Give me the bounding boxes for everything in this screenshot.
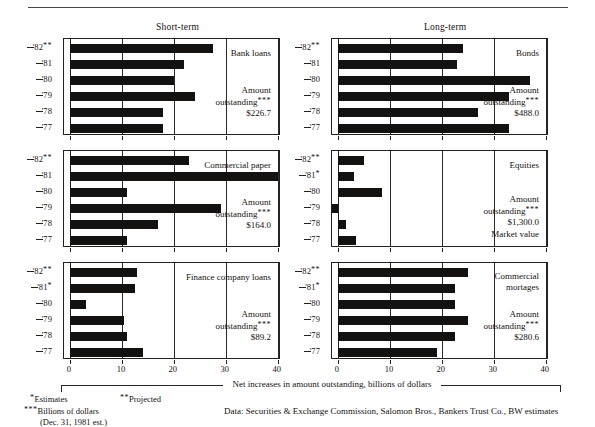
bar [70, 44, 213, 53]
x-tick-mark [390, 248, 391, 252]
x-axis-tick-label: 10 [385, 364, 394, 374]
amount-label-line2: outstanding*** [216, 321, 272, 333]
bar [70, 284, 135, 293]
x-tick-mark [226, 136, 227, 140]
gridline [546, 151, 547, 246]
chart-panel: '82**'81*'80'79'78'77Finance company loa… [58, 262, 280, 359]
x-tick-mark [546, 248, 547, 252]
y-axis-year-label: '80 [42, 298, 52, 308]
gridline [278, 39, 279, 134]
y-tick-mark [36, 207, 43, 208]
bar [338, 108, 478, 117]
y-axis-year-label: '79 [42, 90, 52, 100]
gridline [70, 39, 71, 134]
bar-row [64, 172, 279, 181]
y-tick-mark [304, 335, 311, 336]
amount-extra-note: Market value [484, 229, 540, 241]
plot-frame: Commercial paperAmountoutstanding***$164… [63, 150, 280, 247]
y-tick-mark [36, 351, 43, 352]
y-tick-mark [304, 239, 311, 240]
bar-row [64, 124, 279, 133]
x-tick-mark [494, 136, 495, 140]
gridline [546, 263, 547, 358]
y-tick-mark [304, 63, 311, 64]
amount-outstanding-annotation: Amountoutstanding***$164.0 [216, 197, 272, 232]
chart-panel: '82**'81*'80'79'78'77EquitiesAmountoutst… [326, 150, 548, 247]
y-tick-mark [304, 351, 311, 352]
gridline [338, 151, 339, 246]
bar [70, 204, 221, 213]
x-axis-tick-label: 20 [169, 364, 178, 374]
series-title: Equities [510, 160, 540, 171]
gridline [70, 151, 71, 246]
bar [70, 348, 143, 357]
x-axis-tick-label: 20 [437, 364, 446, 374]
bar [338, 284, 455, 293]
x-tick-mark [338, 136, 339, 140]
y-axis-year-label: '81* [305, 282, 320, 292]
bar [70, 172, 278, 181]
bar-row [332, 124, 547, 133]
gridline [390, 151, 391, 246]
x-tick-mark [174, 248, 175, 252]
bar [70, 156, 189, 165]
amount-value: $280.6 [484, 332, 540, 344]
amount-outstanding-annotation: Amountoutstanding***$226.7 [216, 85, 272, 120]
amount-label-line2: outstanding*** [484, 321, 540, 333]
y-tick-mark [36, 303, 43, 304]
y-axis-year-label: '80 [310, 298, 320, 308]
y-tick-mark [304, 207, 311, 208]
y-tick-mark [304, 79, 311, 80]
bar-row [64, 60, 279, 69]
y-axis-year-label: '82** [301, 266, 320, 276]
y-tick-mark [27, 271, 34, 272]
footnote-dec-note: (Dec. 31, 1981 est.) [40, 417, 107, 427]
amount-outstanding-annotation: Amountoutstanding***$488.0 [484, 85, 540, 120]
bar [338, 60, 457, 69]
y-tick-mark [27, 47, 34, 48]
y-axis-year-label: '80 [310, 74, 320, 84]
bar [338, 188, 382, 197]
series-title: Bonds [516, 48, 539, 59]
y-axis-year-label: '82** [301, 154, 320, 164]
x-tick-mark [122, 248, 123, 252]
gridline [122, 39, 123, 134]
y-tick-mark [304, 95, 311, 96]
y-axis-year-label: '79 [42, 202, 52, 212]
y-axis-year-label: '78 [310, 218, 320, 228]
x-tick-mark [390, 136, 391, 140]
bar-row [64, 300, 279, 309]
bar-row [64, 236, 279, 245]
y-axis-year-label: '80 [42, 74, 52, 84]
x-axis-tick-label: 0 [67, 364, 71, 374]
y-axis-year-label: '78 [310, 106, 320, 116]
bar [332, 204, 338, 213]
chart-panel: '82**'81'80'79'78'77Bank loansAmountouts… [58, 38, 280, 135]
gridline [122, 151, 123, 246]
amount-value: $164.0 [216, 220, 272, 232]
series-title: Bank loans [231, 48, 271, 59]
bar [70, 76, 174, 85]
bar [70, 60, 184, 69]
bar [70, 300, 86, 309]
bar [338, 44, 463, 53]
bar [70, 268, 138, 277]
series-title: Commercial paper [204, 160, 271, 171]
bar [338, 268, 468, 277]
bar-row [332, 172, 547, 181]
bar-row [64, 188, 279, 197]
bar-row [332, 76, 547, 85]
y-tick-mark [304, 111, 311, 112]
y-axis-year-label: '79 [310, 202, 320, 212]
series-title: Finance company loans [186, 272, 271, 283]
x-tick-mark [494, 248, 495, 252]
bar-row [332, 60, 547, 69]
amount-value: $1,300.0 [484, 217, 540, 229]
y-tick-mark [295, 159, 302, 160]
x-tick-mark [278, 136, 279, 140]
x-tick-mark [338, 248, 339, 252]
amount-outstanding-annotation: Amountoutstanding***$1,300.0Market value [484, 194, 540, 240]
gridline [390, 263, 391, 358]
bar-row [64, 76, 279, 85]
bar [338, 220, 346, 229]
